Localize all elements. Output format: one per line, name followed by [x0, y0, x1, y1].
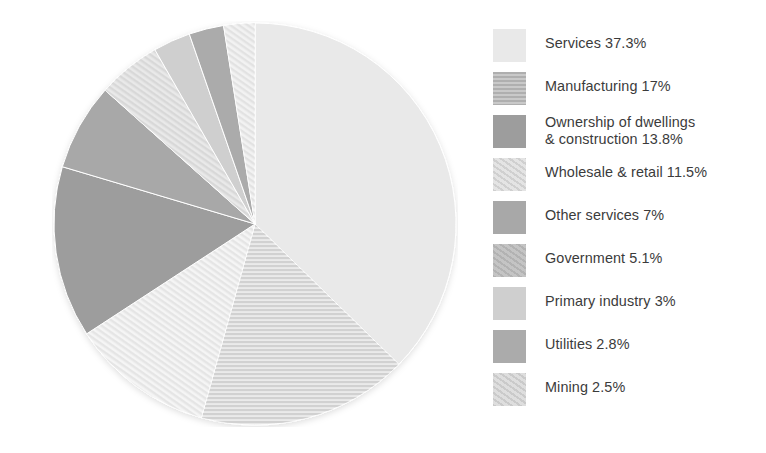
legend-item-label: Services 37.3% — [545, 28, 646, 52]
legend-swatch-government — [493, 244, 526, 277]
legend-item[interactable]: Services 37.3% — [493, 28, 761, 62]
legend-item[interactable]: Primary industry 3% — [493, 286, 761, 320]
legend-item-label: Ownership of dwellings & construction 13… — [545, 114, 695, 148]
pie-chart-figure: Services 37.3%Manufacturing 17%Ownership… — [0, 0, 766, 453]
legend-swatch-mining — [493, 373, 526, 406]
legend-item[interactable]: Ownership of dwellings & construction 13… — [493, 114, 761, 148]
legend-item-label: Utilities 2.8% — [545, 329, 630, 353]
pie-chart-svg — [52, 21, 458, 427]
legend-swatch-utilities — [493, 330, 526, 363]
legend-item-label: Primary industry 3% — [545, 286, 676, 310]
legend-item[interactable]: Other services 7% — [493, 200, 761, 234]
pie-chart — [52, 21, 458, 427]
legend-item[interactable]: Manufacturing 17% — [493, 71, 761, 105]
legend-item[interactable]: Wholesale & retail 11.5% — [493, 157, 761, 191]
legend-item-label: Manufacturing 17% — [545, 71, 671, 95]
legend-item-label: Other services 7% — [545, 200, 664, 224]
legend-item-label: Mining 2.5% — [545, 372, 625, 396]
legend-item[interactable]: Utilities 2.8% — [493, 329, 761, 363]
chart-legend: Services 37.3%Manufacturing 17%Ownership… — [493, 28, 761, 415]
legend-swatch-manufacturing — [493, 72, 526, 105]
legend-swatch-primary-industry — [493, 287, 526, 320]
legend-swatch-services — [493, 29, 526, 62]
legend-swatch-ownership-of-dwellings — [493, 115, 526, 148]
legend-item[interactable]: Mining 2.5% — [493, 372, 761, 406]
pie-slice-group — [54, 23, 456, 425]
legend-item-label: Government 5.1% — [545, 243, 662, 267]
legend-item[interactable]: Government 5.1% — [493, 243, 761, 277]
legend-swatch-wholesale-retail — [493, 158, 526, 191]
legend-swatch-other-services — [493, 201, 526, 234]
legend-item-label: Wholesale & retail 11.5% — [545, 157, 707, 181]
